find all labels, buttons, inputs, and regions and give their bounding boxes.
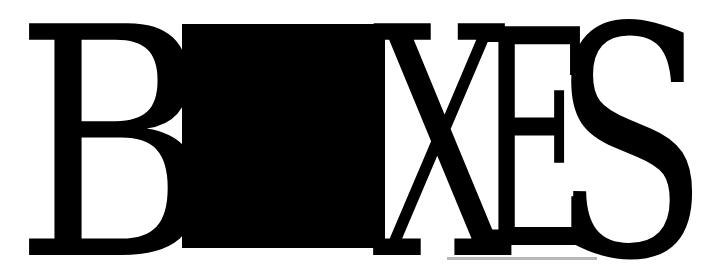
- letter-s: S: [552, 0, 709, 266]
- black-square-o: [182, 24, 385, 248]
- underline-rule: [447, 257, 597, 260]
